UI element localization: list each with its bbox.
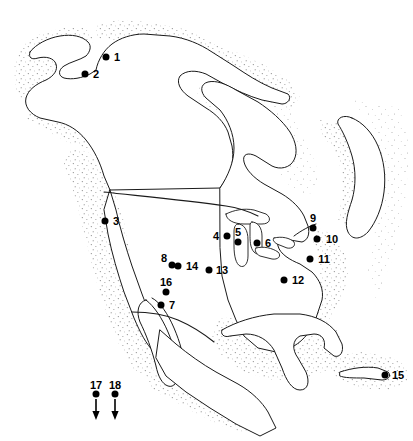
site-marker-15[interactable] (382, 372, 389, 379)
site-marker-13[interactable] (206, 267, 213, 274)
site-marker-12[interactable] (281, 277, 288, 284)
site-label-2: 2 (93, 69, 99, 80)
site-marker-3[interactable] (102, 218, 109, 225)
site-label-11: 11 (318, 254, 330, 265)
site-marker-9[interactable] (310, 225, 317, 232)
site-label-4: 4 (213, 231, 219, 242)
arrow-17 (92, 399, 99, 420)
site-label-3: 3 (113, 216, 119, 227)
site-marker-17[interactable] (93, 391, 100, 398)
site-marker-11[interactable] (307, 256, 314, 263)
site-label-17: 17 (90, 380, 102, 391)
site-marker-16[interactable] (163, 289, 170, 296)
site-marker-6[interactable] (254, 240, 261, 247)
site-marker-7[interactable] (158, 302, 165, 309)
site-label-8: 8 (161, 253, 167, 264)
site-label-18: 18 (109, 380, 121, 391)
site-label-12: 12 (292, 275, 304, 286)
site-marker-18[interactable] (112, 391, 119, 398)
site-marker-5[interactable] (235, 239, 242, 246)
site-label-16: 16 (160, 277, 172, 288)
site-label-14: 14 (186, 261, 198, 272)
site-label-15: 15 (392, 370, 404, 381)
arrow-18 (111, 399, 118, 420)
site-label-9: 9 (310, 213, 316, 224)
site-label-13: 13 (216, 265, 228, 276)
site-marker-14[interactable] (175, 263, 182, 270)
site-label-10: 10 (326, 234, 338, 245)
site-label-5: 5 (235, 227, 241, 238)
offmap-arrows (92, 399, 118, 420)
site-marker-10[interactable] (314, 236, 321, 243)
site-marker-4[interactable] (224, 233, 231, 240)
site-label-6: 6 (265, 238, 271, 249)
site-label-7: 7 (169, 300, 175, 311)
map-base-graphic (0, 0, 413, 441)
site-label-1: 1 (114, 52, 120, 63)
site-marker-1[interactable] (103, 54, 110, 61)
map-figure: 1 2 3 4 5 6 7 8 9 10 11 12 13 14 15 16 1… (0, 0, 413, 441)
site-marker-2[interactable] (82, 71, 89, 78)
